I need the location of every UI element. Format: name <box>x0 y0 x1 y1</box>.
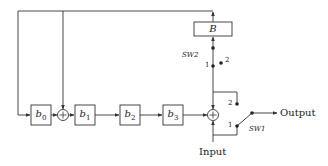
sw2-common-dot <box>211 46 215 50</box>
sw1-pos1-label: 1 <box>228 122 232 129</box>
branch-to-sw1-pos1 <box>213 126 237 135</box>
sw2-pos1-label: 1 <box>205 62 209 69</box>
sw1-label: SW1 <box>249 126 265 133</box>
label-b1: b1 <box>75 109 95 122</box>
label-b0: b0 <box>31 109 51 122</box>
left-feedback-line <box>18 11 30 115</box>
block-diagram <box>0 0 328 166</box>
input-label: Input <box>199 147 226 157</box>
branch-to-sw1-pos2 <box>213 92 237 104</box>
sw1-pivot-dot <box>250 111 254 115</box>
sw2-pos2-dot <box>219 61 223 65</box>
label-B: B <box>194 24 232 34</box>
output-label: Output <box>280 108 316 118</box>
sw2-pos2-label: 2 <box>225 57 229 64</box>
sw1-pos1-dot <box>235 124 239 128</box>
sw2-label: SW2 <box>182 52 198 59</box>
label-b2: b2 <box>120 109 140 122</box>
sw1-pos2-dot <box>235 102 239 106</box>
label-b3: b3 <box>163 109 183 122</box>
sw2-pos1-dot <box>211 64 215 68</box>
sw1-pos2-label: 2 <box>228 100 232 107</box>
